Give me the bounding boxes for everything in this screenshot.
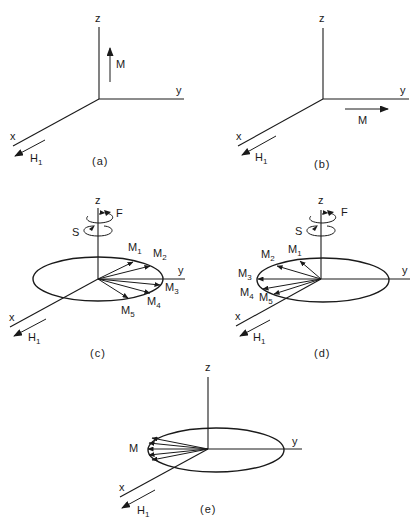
y-label: y	[400, 84, 406, 96]
m-label: M	[358, 114, 367, 126]
caption-b: (b)	[314, 158, 330, 170]
x-label: x	[10, 130, 16, 142]
m2-vector-icon	[277, 266, 321, 279]
m2-label: M2	[261, 248, 275, 263]
m-vector-icon	[152, 438, 208, 449]
x-axis	[13, 99, 99, 146]
caption-c: (c)	[90, 347, 106, 359]
slow-label: S	[72, 226, 79, 238]
panel-d: z y x F S M1 M2 M3 M4 M5 H1 (d)	[235, 194, 410, 359]
m3-label: M3	[165, 281, 179, 296]
z-label: z	[95, 12, 101, 24]
slow-label: S	[295, 225, 302, 237]
fast-rotation-icon	[310, 213, 336, 223]
x-axis	[10, 279, 98, 327]
z-label: z	[319, 12, 325, 24]
h1-label: H1	[30, 152, 43, 167]
fast-label: F	[341, 206, 348, 218]
m-vector-icon	[152, 449, 208, 460]
m-vector-icon	[149, 443, 208, 449]
fast-arrowhead-icon	[104, 210, 111, 216]
y-label: y	[402, 264, 408, 276]
x-label: x	[9, 311, 15, 323]
h1-label: H1	[137, 504, 150, 519]
m1-vector-icon	[98, 262, 133, 279]
fast-label: F	[116, 207, 123, 219]
h1-label: H1	[255, 151, 268, 166]
fast-rotation-icon	[87, 213, 113, 223]
z-label: z	[205, 361, 211, 373]
m-label: M	[116, 58, 125, 70]
h1-label: H1	[253, 331, 266, 346]
z-label: z	[318, 194, 324, 206]
m4-label: M4	[240, 286, 254, 301]
m4-label: M4	[147, 295, 161, 310]
x-axis	[120, 449, 208, 497]
m-label: M	[129, 442, 138, 454]
m5-label: M5	[121, 304, 135, 319]
z-label: z	[95, 194, 101, 206]
panel-b: z y x M H1 (b)	[236, 12, 409, 170]
m2-vector-icon	[98, 266, 150, 279]
y-label: y	[292, 435, 298, 447]
m2-label: M2	[153, 247, 167, 262]
m1-label: M1	[128, 241, 142, 256]
x-label: x	[235, 310, 241, 322]
panel-e: z y x M H1 (e)	[119, 361, 302, 519]
spin-echo-figure: z y x M H1 (a) z y x M H1 (b) z y x F	[0, 0, 420, 526]
caption-a: (a)	[92, 155, 108, 167]
x-label: x	[119, 481, 125, 493]
h1-label: H1	[28, 331, 41, 346]
precession-ellipse	[148, 428, 284, 472]
y-label: y	[176, 84, 182, 96]
m3-label: M3	[238, 267, 252, 282]
x-axis	[238, 99, 323, 146]
fast-arrowhead-icon	[327, 210, 334, 216]
caption-e: (e)	[200, 503, 216, 515]
panel-c: z y x F S M1 M2 M3 M4 M5 H1 (c)	[9, 194, 185, 359]
precession-ellipse	[257, 258, 389, 302]
panel-a: z y x M H1 (a)	[10, 12, 184, 167]
caption-d: (d)	[314, 347, 330, 359]
x-label: x	[236, 130, 242, 142]
y-label: y	[178, 264, 184, 276]
m1-label: M1	[288, 243, 302, 258]
